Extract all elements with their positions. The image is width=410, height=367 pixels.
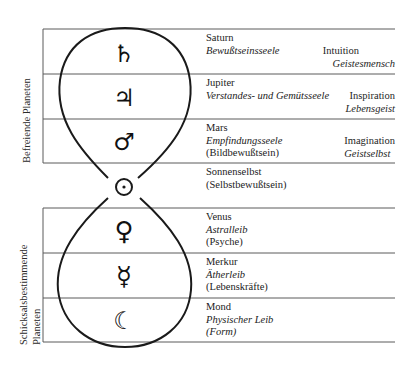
side-saturn: Intuition Geistesmensch xyxy=(323,45,395,70)
planet-name: Jupiter xyxy=(206,77,329,90)
paren-note: (Form) xyxy=(206,326,273,339)
spirit-member: Lebensgeist xyxy=(345,103,395,116)
stage-label: Inspiration xyxy=(345,90,395,103)
planet-name: Merkur xyxy=(206,256,268,269)
soul-member: Empfindungsseele xyxy=(206,135,282,148)
soul-member: Verstandes- und Gemütsseele xyxy=(206,90,329,103)
venus-icon: ♀ xyxy=(104,216,144,246)
moon-icon: ☾ xyxy=(104,307,144,335)
mercury-icon: ☿ xyxy=(104,261,144,291)
stage-label: Imagination xyxy=(344,135,395,148)
planet-name: Mond xyxy=(206,301,273,314)
planet-name: Mars xyxy=(206,122,282,135)
planet-name: Saturn xyxy=(206,32,279,45)
body-member: Ätherleib xyxy=(206,269,268,282)
spirit-member: Geistselbst xyxy=(344,148,395,161)
stage-label: Intuition xyxy=(323,45,395,58)
body-member: Physischer Leib xyxy=(206,314,273,327)
paren-note: (Lebenskräfte) xyxy=(206,281,268,294)
row-venus: Venus Astralleib (Psyche) xyxy=(206,211,247,249)
row-mars: Mars Empfindungsseele (Bildbewußtsein) xyxy=(206,122,282,160)
row-moon: Mond Physischer Leib (Form) xyxy=(206,301,273,339)
side-jupiter: Inspiration Lebensgeist xyxy=(345,90,395,115)
group-label-lower-line2: Planeten xyxy=(31,309,43,345)
paren-note: (Psyche) xyxy=(206,236,247,249)
row-mercury: Merkur Ätherleib (Lebenskräfte) xyxy=(206,256,268,294)
body-member: Astralleib xyxy=(206,224,247,237)
row-jupiter: Jupiter Verstandes- und Gemütsseele xyxy=(206,77,329,102)
spirit-member: Geistesmensch xyxy=(323,58,395,71)
saturn-icon: ♄ xyxy=(104,40,144,68)
planet-name: Sonnenselbst xyxy=(206,166,287,179)
mars-icon: ♂ xyxy=(104,128,144,156)
soul-member: Bewußtseinsseele xyxy=(206,45,279,58)
row-sun: Sonnenselbst (Selbstbewußtsein) xyxy=(206,166,287,191)
sun-symbol xyxy=(116,179,132,195)
side-mars: Imagination Geistselbst xyxy=(344,135,395,160)
group-label-upper: Befreiende Planeten xyxy=(21,78,33,163)
paren-note: (Selbstbewußtsein) xyxy=(206,179,287,192)
group-label-lower-line1: Schicksalsbestimmende xyxy=(18,245,30,345)
paren-note: (Bildbewußtsein) xyxy=(206,147,282,160)
planet-name: Venus xyxy=(206,211,247,224)
row-saturn: Saturn Bewußtseinsseele xyxy=(206,32,279,57)
jupiter-icon: ♃ xyxy=(104,84,144,112)
